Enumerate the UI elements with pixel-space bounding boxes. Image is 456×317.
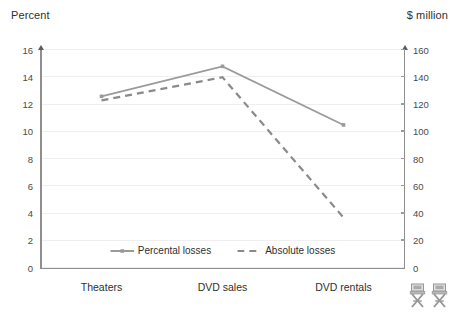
legend-label: Percental losses bbox=[138, 246, 211, 256]
right-axis-tick-label: 140 bbox=[413, 73, 429, 83]
decorative-chair-icons bbox=[408, 283, 449, 313]
plot-area: 0246810121416 020406080100120140160 Thea… bbox=[41, 50, 404, 268]
right-axis-title: $ million bbox=[407, 9, 448, 21]
legend-swatch-icon bbox=[237, 246, 261, 256]
x-axis-tick-label: DVD rentals bbox=[315, 282, 372, 293]
left-axis-tick-label: 12 bbox=[22, 100, 33, 110]
left-axis-title: Percent bbox=[11, 9, 50, 21]
left-axis-tick-label: 4 bbox=[28, 209, 33, 219]
left-axis-tick-label: 8 bbox=[28, 155, 33, 165]
x-axis-tick-label: Theaters bbox=[81, 282, 122, 293]
right-axis-tick-label: 80 bbox=[413, 155, 424, 165]
right-axis-tick-label: 160 bbox=[413, 46, 429, 56]
left-axis-tick-label: 14 bbox=[22, 73, 33, 83]
series-line bbox=[102, 77, 344, 217]
right-axis-tick-label: 0 bbox=[413, 264, 418, 274]
legend-label: Absolute losses bbox=[265, 246, 335, 256]
series-line bbox=[102, 66, 344, 125]
x-axis-tick-label: DVD sales bbox=[198, 282, 248, 293]
left-axis-tick-label: 6 bbox=[28, 182, 33, 192]
left-axis-tick-label: 10 bbox=[22, 127, 33, 137]
series-marker bbox=[100, 95, 104, 99]
right-axis-tick-label: 60 bbox=[413, 182, 424, 192]
series-marker bbox=[342, 123, 346, 127]
left-axis-tick-label: 0 bbox=[28, 264, 33, 274]
director-chair-icon bbox=[430, 283, 449, 313]
chart-legend: Percental lossesAbsolute losses bbox=[110, 246, 335, 256]
right-axis-tick-label: 20 bbox=[413, 236, 424, 246]
left-axis-tick-label: 2 bbox=[28, 236, 33, 246]
left-axis-tick-label: 16 bbox=[22, 46, 33, 56]
series-layer bbox=[41, 50, 404, 268]
right-axis-tick-label: 40 bbox=[413, 209, 424, 219]
legend-swatch-icon bbox=[110, 246, 134, 256]
right-axis-tick-label: 100 bbox=[413, 127, 429, 137]
dual-axis-line-chart: Percent $ million 0246810121416 02040608… bbox=[0, 0, 456, 317]
director-chair-icon bbox=[408, 283, 427, 313]
legend-item[interactable]: Percental losses bbox=[110, 246, 211, 256]
series-marker bbox=[221, 65, 225, 69]
right-axis-tick-label: 120 bbox=[413, 100, 429, 110]
legend-item[interactable]: Absolute losses bbox=[237, 246, 335, 256]
